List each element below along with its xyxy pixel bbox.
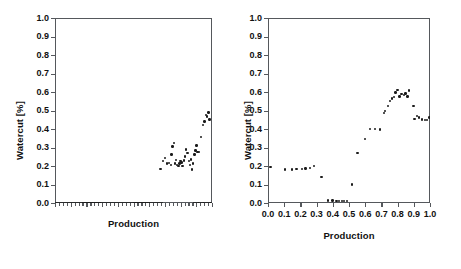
- x-tick-mark: [284, 203, 285, 207]
- data-point: [177, 165, 179, 167]
- data-point: [207, 111, 209, 113]
- y-tick-mark: [51, 37, 55, 38]
- y-tick-label: 0.2: [19, 162, 49, 171]
- x-minor-tick-mark: [126, 203, 127, 206]
- plot-area-right: [268, 18, 430, 203]
- y-tick-mark: [264, 74, 268, 75]
- data-point: [394, 91, 396, 93]
- data-point: [404, 92, 406, 94]
- data-point: [331, 199, 333, 201]
- data-point: [309, 167, 311, 169]
- data-point: [193, 153, 195, 155]
- x-minor-tick-mark: [106, 203, 107, 206]
- data-point: [164, 157, 166, 159]
- data-point: [162, 160, 164, 162]
- y-tick-mark: [51, 111, 55, 112]
- data-point: [389, 100, 391, 102]
- data-point: [186, 152, 188, 154]
- data-point: [301, 168, 303, 170]
- x-tick-mark: [381, 203, 382, 207]
- y-tick-label: 0.7: [19, 69, 49, 78]
- x-tick-mark: [414, 203, 415, 207]
- data-point: [203, 120, 205, 122]
- data-point: [191, 168, 193, 170]
- data-point: [173, 142, 175, 144]
- plot-area-left: [55, 18, 212, 203]
- y-tick-mark: [264, 148, 268, 149]
- data-point: [393, 96, 395, 98]
- data-point: [208, 118, 210, 120]
- x-minor-tick-mark: [200, 203, 201, 206]
- x-minor-tick-mark: [165, 203, 166, 206]
- y-tick-label: 0.1: [19, 180, 49, 189]
- y-tick-mark: [51, 92, 55, 93]
- y-tick-label: 0.2: [232, 162, 262, 171]
- x-minor-tick-mark: [161, 203, 162, 206]
- x-minor-tick-mark: [79, 203, 80, 206]
- data-point: [185, 148, 187, 150]
- x-minor-tick-mark: [110, 203, 111, 206]
- data-point: [406, 95, 408, 97]
- y-tick-label: 0.9: [19, 32, 49, 41]
- y-tick-mark: [264, 37, 268, 38]
- x-minor-tick-mark: [185, 203, 186, 206]
- y-tick-mark: [51, 129, 55, 130]
- y-tick-label: 0.4: [19, 125, 49, 134]
- x-minor-tick-mark: [98, 203, 99, 206]
- x-minor-tick-mark: [153, 203, 154, 206]
- x-minor-tick-mark: [137, 203, 138, 206]
- data-point: [327, 199, 329, 201]
- x-minor-tick-mark: [71, 203, 72, 206]
- y-tick-label: 0.5: [19, 106, 49, 115]
- data-point: [195, 144, 197, 146]
- x-minor-tick-mark: [173, 203, 174, 206]
- x-tick-mark: [300, 203, 301, 207]
- x-tick-label: 1.0: [418, 210, 442, 219]
- data-point: [369, 128, 371, 130]
- data-point: [198, 151, 200, 153]
- x-minor-tick-mark: [177, 203, 178, 206]
- y-tick-mark: [264, 166, 268, 167]
- y-tick-mark: [264, 111, 268, 112]
- x-minor-tick-mark: [75, 203, 76, 206]
- data-point: [346, 200, 348, 202]
- data-point: [374, 128, 376, 130]
- x-axis-title-left: Production: [55, 218, 212, 229]
- data-point: [313, 165, 315, 167]
- data-point: [379, 128, 381, 130]
- data-point: [320, 176, 322, 178]
- x-minor-tick-mark: [82, 203, 83, 206]
- x-minor-tick-mark: [188, 203, 189, 206]
- x-minor-tick-mark: [114, 203, 115, 206]
- data-point: [384, 110, 386, 112]
- data-point: [364, 138, 366, 140]
- x-minor-tick-mark: [192, 203, 193, 206]
- x-tick-mark: [398, 203, 399, 207]
- y-tick-label: 0.3: [232, 143, 262, 152]
- x-minor-tick-mark: [63, 203, 64, 206]
- y-tick-label: 0.7: [232, 69, 262, 78]
- y-tick-mark: [51, 185, 55, 186]
- data-point: [343, 200, 345, 202]
- y-tick-label: 1.0: [19, 14, 49, 23]
- data-point: [412, 105, 414, 107]
- data-point: [428, 116, 430, 118]
- y-tick-mark: [264, 92, 268, 93]
- x-minor-tick-mark: [102, 203, 103, 206]
- data-point: [202, 124, 204, 126]
- x-minor-tick-mark: [130, 203, 131, 206]
- data-point: [175, 159, 177, 161]
- y-tick-mark: [51, 166, 55, 167]
- y-tick-label: 0.1: [232, 180, 262, 189]
- y-tick-label: 0.6: [232, 88, 262, 97]
- data-point: [295, 168, 297, 170]
- x-minor-tick-mark: [134, 203, 135, 206]
- data-point: [426, 119, 428, 121]
- x-minor-tick-mark: [59, 203, 60, 206]
- data-point: [413, 118, 415, 120]
- data-point: [396, 89, 398, 91]
- chart-panel-right: Watercut [%] 0.00.10.20.30.40.50.60.70.8…: [228, 0, 461, 269]
- data-point: [418, 116, 420, 118]
- data-point: [387, 105, 389, 107]
- x-tick-mark: [365, 203, 366, 207]
